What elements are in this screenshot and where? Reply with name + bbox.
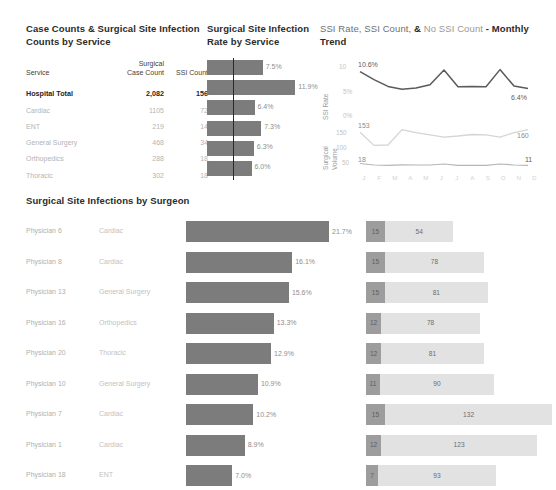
- surgeon-stacked-bar-wrap: 1278: [366, 313, 556, 334]
- col-header-case-count-line1: Surgical: [139, 60, 164, 67]
- cell-service: ENT: [26, 118, 112, 134]
- surgeon-rate-label: 7.0%: [235, 472, 251, 479]
- month-tick: M: [387, 174, 403, 181]
- surgeon-rate-bar[interactable]: [186, 374, 258, 395]
- trend-volume-last-label: 160: [517, 132, 529, 139]
- cell-ssi-count: 156: [164, 84, 208, 102]
- rate-bar-row[interactable]: 7.3%: [207, 121, 319, 136]
- rate-bar-row[interactable]: 11.9%: [207, 80, 319, 95]
- surgeon-rate-label: 10.9%: [261, 380, 281, 387]
- surgeon-rate-bar[interactable]: [186, 221, 329, 242]
- monthly-trend-panel: SSI Rate, SSI Count, & No SSI Count - Mo…: [320, 22, 542, 190]
- surgeon-rate-bar[interactable]: [186, 404, 253, 425]
- ssi-rate-chart-title: Surgical Site Infection Rate by Service: [207, 22, 319, 48]
- no-ssi-count-label: 81: [381, 350, 484, 357]
- month-tick: J: [356, 174, 372, 181]
- surgeon-rate-label: 21.7%: [332, 228, 352, 235]
- no-ssi-count-label: 90: [380, 380, 494, 387]
- rate-bar[interactable]: [207, 141, 254, 156]
- surgeon-name: Physician 10: [26, 380, 66, 387]
- rate-bar-label: 6.4%: [258, 103, 274, 110]
- surgeon-service: General Surgery: [99, 288, 150, 295]
- surgeon-rows-container: Physician 6Cardiac21.7%1554Physician 8Ca…: [26, 221, 542, 486]
- surgeon-service: Cardiac: [99, 227, 123, 234]
- cell-case-count: 288: [112, 151, 164, 167]
- surgeon-service: Cardiac: [99, 410, 123, 417]
- ssi-rate-chart-panel: Surgical Site Infection Rate by Service …: [207, 22, 319, 182]
- table-row: Hospital Total2,082156: [26, 84, 208, 102]
- surgeon-stacked-bar-wrap: 1581: [366, 282, 556, 303]
- ssi-count-label: 12: [366, 350, 381, 357]
- surgeon-service: Thoracic: [99, 349, 126, 356]
- no-ssi-count-label: 123: [381, 441, 537, 448]
- col-header-ssi-count: SSI Count: [164, 60, 208, 84]
- surgeon-service: Orthopedics: [99, 319, 137, 326]
- surgeon-rate-bar[interactable]: [186, 282, 289, 303]
- rate-bar-row[interactable]: 6.3%: [207, 141, 319, 156]
- rate-bar-row[interactable]: 6.0%: [207, 161, 319, 176]
- rate-bar[interactable]: [207, 100, 255, 115]
- cell-ssi-count: 72: [164, 102, 208, 118]
- surgeon-row[interactable]: Physician 7Cardiac10.2%15132: [26, 404, 542, 425]
- surgeon-name: Physician 18: [26, 471, 66, 478]
- ssi-count-label: 7: [366, 472, 378, 479]
- ssi-count-label: 15: [366, 228, 385, 235]
- col-header-case-count: Surgical Case Count: [112, 60, 164, 84]
- surgeon-row[interactable]: Physician 16Orthopedics13.3%1278: [26, 313, 542, 334]
- service-table-body: Hospital Total2,082156Cardiac110572ENT21…: [26, 84, 208, 183]
- rate-bar-row[interactable]: 7.5%: [207, 60, 319, 75]
- no-ssi-count-label: 81: [385, 289, 488, 296]
- surgeon-row[interactable]: Physician 18ENT7.0%793: [26, 465, 542, 486]
- surgeon-row[interactable]: Physician 6Cardiac21.7%1554: [26, 221, 542, 242]
- surgeon-row[interactable]: Physician 20Thoracic12.9%1281: [26, 343, 542, 364]
- rate-bar[interactable]: [207, 161, 252, 176]
- trend-line: [360, 164, 528, 166]
- ssi-count-label: 15: [366, 258, 385, 265]
- surgeon-rate-bar[interactable]: [186, 252, 292, 273]
- surgeon-name: Physician 20: [26, 349, 66, 356]
- surgeon-row[interactable]: Physician 10General Surgery10.9%1190: [26, 374, 542, 395]
- cell-ssi-count: 18: [164, 167, 208, 183]
- surgeon-rate-bar[interactable]: [186, 313, 274, 334]
- surgeon-stacked-bar-wrap: 1578: [366, 252, 556, 273]
- table-row: Cardiac110572: [26, 102, 208, 118]
- ssi-count-label: 15: [366, 411, 385, 418]
- trend-ssi-last-label: 11: [525, 156, 532, 163]
- surgeon-row[interactable]: Physician 8Cardiac16.1%1578: [26, 252, 542, 273]
- rate-bar-label: 6.3%: [257, 143, 273, 150]
- trend-title-part4: Trend: [320, 36, 346, 47]
- surgeon-stacked-bar-wrap: 1281: [366, 343, 556, 364]
- month-tick: F: [372, 174, 388, 181]
- month-tick: M: [418, 174, 434, 181]
- surgeon-rate-bar[interactable]: [186, 435, 245, 456]
- surgeon-service: ENT: [99, 471, 113, 478]
- service-table-head: Service Surgical Case Count SSI Count: [26, 60, 208, 84]
- surgeon-service: Cardiac: [99, 441, 123, 448]
- ssi-count-label: 15: [366, 289, 385, 296]
- surgeon-row[interactable]: Physician 1Cardiac8.9%12123: [26, 435, 542, 456]
- surgeon-service: General Surgery: [99, 380, 150, 387]
- surgeon-rate-bar-wrap: 13.3%: [186, 313, 341, 334]
- surgeon-rate-label: 10.2%: [256, 411, 276, 418]
- surgeon-rate-bar[interactable]: [186, 343, 271, 364]
- surgeon-rate-bar[interactable]: [186, 465, 232, 486]
- cell-service: Hospital Total: [26, 84, 112, 102]
- surgeon-row[interactable]: Physician 13General Surgery15.6%1581: [26, 282, 542, 303]
- trend-title-part3: - Monthly: [486, 23, 529, 34]
- monthly-trend-plot: SSI Rate Surgical Volume 10 5% 0% 150 10…: [320, 62, 542, 190]
- rate-bar-row[interactable]: 6.4%: [207, 100, 319, 115]
- service-table-title: Case Counts & Surgical Site Infection Co…: [26, 22, 208, 48]
- trend-title-part2: No SSI Count: [424, 23, 483, 34]
- trend-rate-last-label: 6.4%: [511, 94, 527, 101]
- trend-lines-svg: [320, 62, 542, 174]
- rate-bar[interactable]: [207, 60, 263, 75]
- surgeon-rate-label: 8.9%: [248, 441, 264, 448]
- cell-service: General Surgery: [26, 135, 112, 151]
- monthly-trend-title: SSI Rate, SSI Count, & No SSI Count - Mo…: [320, 22, 542, 48]
- surgeon-name: Physician 13: [26, 288, 66, 295]
- surgeon-stacked-bar-wrap: 793: [366, 465, 556, 486]
- surgeon-name: Physician 16: [26, 319, 66, 326]
- trend-title-amp: &: [414, 23, 421, 34]
- rate-bar[interactable]: [207, 80, 295, 95]
- trend-volume-first-label: 153: [358, 122, 370, 129]
